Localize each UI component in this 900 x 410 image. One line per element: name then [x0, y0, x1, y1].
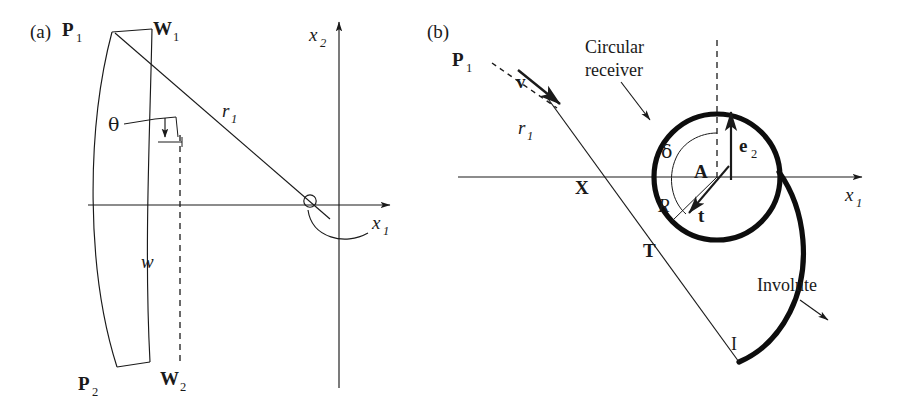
label-p1-subscript: 1 [76, 31, 82, 45]
panel-b-label-v: v [516, 71, 526, 92]
label-x1-letter: x [371, 212, 381, 233]
panel-a-theta-leader [124, 119, 155, 124]
label-w1-subscript: 1 [173, 30, 179, 44]
panel-b-label-T: T [643, 240, 656, 261]
label-e2-subscript: 2 [751, 147, 757, 161]
panel-a-label-theta: θ [108, 113, 119, 135]
panel-a: (a) P 1 W [30, 18, 390, 399]
panel-a-label-r1: r 1 [222, 100, 237, 126]
label-b-p1-letter: P [452, 49, 464, 70]
label-w2-letter: W [160, 368, 179, 389]
label-x2-subscript: 2 [320, 36, 326, 50]
panel-b-involute-leader-arrow [800, 300, 828, 320]
panel-b-label-p1: P 1 [452, 49, 472, 75]
panel-b-circular-receiver-leader-arrow [621, 82, 650, 120]
panel-b-radius-line-R [672, 177, 717, 221]
panel-b-label-circular-receiver-line1: Circular [585, 37, 644, 57]
label-p2-letter: P [78, 373, 90, 394]
panel-b-tag: (b) [427, 21, 449, 43]
panel-b-label-involute: Involute [757, 275, 817, 295]
label-w1-letter: W [153, 18, 172, 39]
panel-a-label-w1: W 1 [153, 18, 179, 44]
panel-a-mirror-top-edge [112, 29, 152, 32]
panel-a-label-w2: W 2 [160, 368, 186, 394]
label-b-r1-subscript: 1 [527, 129, 533, 143]
label-w2-subscript: 2 [180, 380, 186, 394]
panel-b-label-x1: x 1 [844, 184, 862, 210]
label-b-p1-subscript: 1 [466, 61, 472, 75]
label-r1-letter: r [222, 100, 230, 121]
panel-b-label-radius-R: R [657, 195, 670, 216]
label-r1-subscript: 1 [231, 112, 237, 126]
figure-root: (a) P 1 W [0, 0, 900, 410]
panel-a-mirror-back-edge [93, 32, 117, 367]
panel-b-label-circular-receiver-line2: receiver [585, 60, 643, 80]
panel-a-angle-arc [308, 210, 368, 239]
panel-b-label-t: t [698, 205, 705, 226]
label-p1-letter: P [62, 19, 74, 40]
panel-a-theta-bracket [155, 117, 178, 137]
panel-a-label-x2: x 2 [308, 24, 326, 50]
panel-b-label-delta: δ [661, 140, 672, 162]
label-e2-letter: e [739, 135, 747, 156]
panel-b-label-e2: e 2 [739, 135, 757, 161]
panel-b-label-involute-point-I: I [731, 334, 737, 354]
panel-b-involute-curve [739, 172, 803, 362]
panel-b-label-X: X [575, 177, 589, 198]
panel-b-label-center-A: A [694, 161, 708, 182]
panel-a-tag: (a) [30, 21, 51, 43]
panel-a-label-p1: P 1 [62, 19, 82, 45]
label-x2-letter: x [308, 24, 318, 45]
panel-a-ray-r1 [115, 33, 330, 219]
panel-b-ray-r1 [546, 96, 739, 362]
panel-b-label-r1: r 1 [518, 117, 533, 143]
label-b-x1-subscript: 1 [856, 196, 862, 210]
panel-a-mirror-bottom-edge [117, 362, 150, 367]
panel-b: (b) P 1 v r 1 [427, 21, 862, 362]
figure-svg: (a) P 1 W [0, 0, 900, 410]
panel-a-mirror-front-edge [147, 29, 152, 362]
label-b-r1-letter: r [518, 117, 526, 138]
label-p2-subscript: 2 [92, 385, 98, 399]
panel-a-label-x1: x 1 [371, 212, 389, 238]
panel-a-label-p2: P 2 [78, 373, 98, 399]
label-x1-subscript: 1 [383, 224, 389, 238]
panel-a-label-width-w: w [141, 251, 154, 272]
label-b-x1-letter: x [844, 184, 854, 205]
